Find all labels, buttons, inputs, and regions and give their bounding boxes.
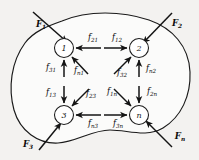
system-boundary-blob (11, 13, 190, 143)
node-3-label: 3 (61, 111, 66, 120)
diagram-canvas: 1 2 3 n f21 f12 f31 fn1 f32 fn2 f13 f23 … (0, 0, 199, 160)
node-1-label: 1 (61, 44, 66, 53)
external-force-label-F2: F2 (171, 18, 182, 29)
free-body-diagram-figure: 1 2 3 n f21 f12 f31 fn1 f32 fn2 f13 f23 … (0, 0, 199, 160)
external-force-label-F1: F1 (35, 19, 46, 30)
external-force-label-F3: F3 (22, 139, 33, 150)
node-n-label: n (136, 111, 141, 120)
node-2-label: 2 (135, 44, 141, 53)
external-force-label-Fn: Fn (174, 131, 185, 142)
